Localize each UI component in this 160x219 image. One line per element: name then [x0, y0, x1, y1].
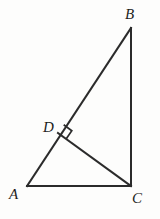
- geometry-figure: A B C D: [0, 0, 160, 219]
- geometry-canvas: [0, 0, 160, 219]
- vertex-label-d: D: [43, 120, 54, 135]
- vertex-label-a: A: [9, 187, 18, 202]
- segment-ab: [27, 28, 131, 186]
- segment-dc: [58, 133, 131, 186]
- vertex-label-c: C: [132, 191, 142, 206]
- vertex-label-b: B: [125, 7, 134, 22]
